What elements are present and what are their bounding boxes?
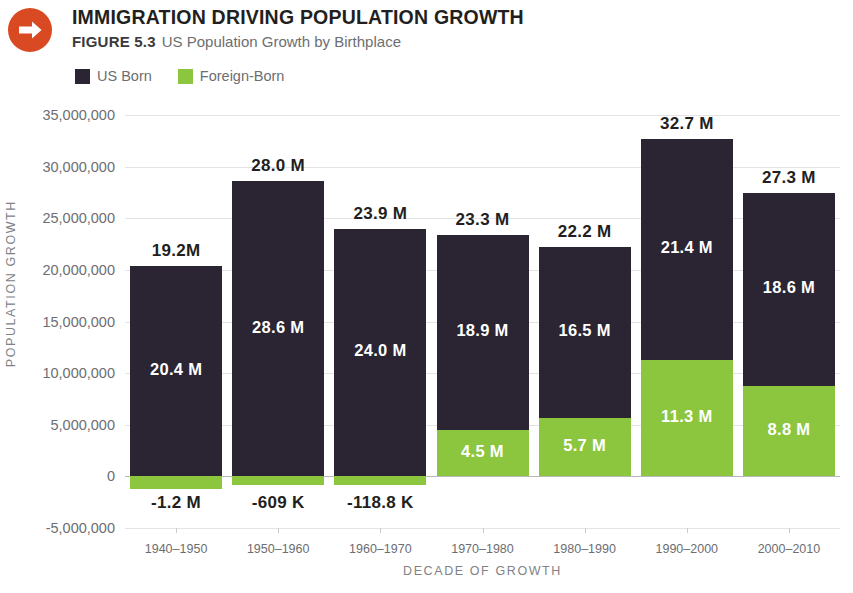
bar-group[interactable]: 18.6 M8.8 M27.3 M2000–2010 <box>743 115 835 528</box>
y-axis-tick-label: 5,000,000 <box>50 417 115 433</box>
bar-label-us-born: 20.4 M <box>130 360 222 379</box>
figure-root: IMMIGRATION DRIVING POPULATION GROWTH FI… <box>0 0 853 593</box>
bar-total-label: 23.3 M <box>425 210 541 230</box>
bar-group[interactable]: 20.4 M-1.2 M19.2M1940–1950 <box>130 115 222 528</box>
figure-caption: FIGURE 5.3US Population Growth by Birthp… <box>72 33 401 50</box>
bar-group[interactable]: 18.9 M4.5 M23.3 M1970–1980 <box>437 115 529 528</box>
x-axis-tick-mark <box>176 528 177 533</box>
x-axis-title: DECADE OF GROWTH <box>125 564 840 578</box>
plot-area: -5,000,00005,000,00010,000,00015,000,000… <box>125 115 840 528</box>
bar-label-foreign-born: 5.7 M <box>539 436 631 455</box>
chart-legend: US Born Foreign-Born <box>75 68 284 84</box>
bar-total-label: 23.9 M <box>322 204 438 224</box>
bar-total-label: 28.0 M <box>220 156 336 176</box>
legend-label-us-born: US Born <box>97 68 152 84</box>
legend-item-us-born: US Born <box>75 68 152 84</box>
legend-swatch-us-born <box>75 69 90 84</box>
y-axis-title: POPULATION GROWTH <box>4 200 18 367</box>
bar-total-label: 27.3 M <box>731 168 847 188</box>
y-axis-tick-label: 35,000,000 <box>42 107 115 123</box>
x-axis-tick-mark <box>789 528 790 533</box>
x-axis-tick-label: 1990–2000 <box>629 542 745 556</box>
bar-label-us-born: 24.0 M <box>334 341 426 360</box>
x-axis-tick-label: 1960–1970 <box>322 542 438 556</box>
legend-label-foreign-born: Foreign-Born <box>200 68 285 84</box>
y-axis-tick-label: 15,000,000 <box>42 314 115 330</box>
bar-total-label: 19.2M <box>118 241 234 261</box>
legend-item-foreign-born: Foreign-Born <box>178 68 285 84</box>
bar-label-us-born: 16.5 M <box>539 321 631 340</box>
bar-group[interactable]: 16.5 M5.7 M22.2 M1980–1990 <box>539 115 631 528</box>
bar-label-us-born: 28.6 M <box>232 318 324 337</box>
bar-label-foreign-born: 11.3 M <box>641 407 733 426</box>
y-axis-tick-label: 0 <box>107 468 115 484</box>
y-axis-tick-label: 30,000,000 <box>42 159 115 175</box>
bar-segment-foreign-born[interactable] <box>130 476 222 488</box>
y-axis-tick-label: 25,000,000 <box>42 210 115 226</box>
right-arrow-circle-icon <box>8 8 52 52</box>
bar-label-us-born: 21.4 M <box>641 238 733 257</box>
x-axis-tick-mark <box>483 528 484 533</box>
bar-group[interactable]: 24.0 M-118.8 K23.9 M1960–1970 <box>334 115 426 528</box>
x-axis-tick-label: 1950–1960 <box>220 542 336 556</box>
bar-total-label: 22.2 M <box>527 222 643 242</box>
figure-subtitle: US Population Growth by Birthplace <box>162 33 401 50</box>
figure-header: IMMIGRATION DRIVING POPULATION GROWTH FI… <box>0 0 853 100</box>
x-axis-tick-mark <box>278 528 279 533</box>
page-title: IMMIGRATION DRIVING POPULATION GROWTH <box>72 6 524 29</box>
y-axis-tick-label: 10,000,000 <box>42 365 115 381</box>
x-axis-tick-label: 2000–2010 <box>731 542 847 556</box>
x-axis-tick-label: 1980–1990 <box>527 542 643 556</box>
bar-group[interactable]: 21.4 M11.3 M32.7 M1990–2000 <box>641 115 733 528</box>
bar-label-us-born: 18.9 M <box>437 321 529 340</box>
x-axis-tick-label: 1940–1950 <box>118 542 234 556</box>
bar-total-label: 32.7 M <box>629 114 745 134</box>
x-axis-tick-mark <box>585 528 586 533</box>
y-axis-tick-label: -5,000,000 <box>46 520 115 536</box>
x-axis-tick-mark <box>687 528 688 533</box>
bar-label-foreign-born: -118.8 K <box>320 493 440 513</box>
bar-segment-foreign-born[interactable] <box>232 476 324 485</box>
legend-swatch-foreign-born <box>178 69 193 84</box>
bar-label-foreign-born: 4.5 M <box>437 442 529 461</box>
bar-group[interactable]: 28.6 M-609 K28.0 M1950–1960 <box>232 115 324 528</box>
bar-label-us-born: 18.6 M <box>743 278 835 297</box>
figure-number: FIGURE 5.3 <box>72 33 156 50</box>
bar-label-foreign-born: 8.8 M <box>743 420 835 439</box>
x-axis-tick-mark <box>380 528 381 533</box>
x-axis-tick-label: 1970–1980 <box>425 542 541 556</box>
y-axis-tick-label: 20,000,000 <box>42 262 115 278</box>
bar-segment-foreign-born[interactable] <box>334 476 426 485</box>
